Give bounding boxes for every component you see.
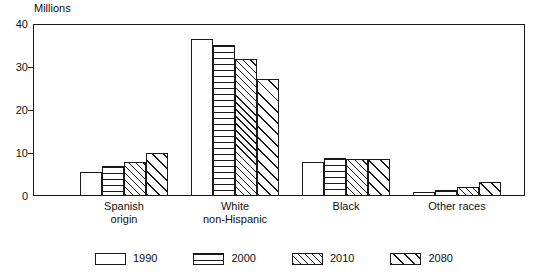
x-axis-category-labels: SpanishoriginWhitenon-HispanicBlackOther… — [33, 200, 525, 236]
legend-label-2010: 2010 — [330, 253, 354, 264]
x-label-spanish-origin: Spanishorigin — [64, 200, 184, 226]
y-tick-label-20: 20 — [2, 105, 28, 116]
y-axis-unit-caption: Millions — [34, 2, 71, 14]
bar-2000-other-races — [435, 190, 457, 196]
legend-label-2000: 2000 — [231, 253, 255, 264]
bar-chart-figure: Millions 40 30 20 10 0 SpanishoriginWhit… — [0, 0, 533, 276]
legend-swatch-1990 — [95, 253, 126, 265]
bar-2000-spanish-origin — [102, 166, 124, 196]
bar-2080-spanish-origin — [146, 153, 168, 196]
legend-swatch-2010 — [292, 253, 323, 265]
bar-2000-black — [324, 158, 346, 196]
bar-2010-spanish-origin — [124, 162, 146, 196]
bar-2010-white-non-hispanic — [235, 59, 257, 196]
bar-2000-white-non-hispanic — [213, 45, 235, 196]
x-label-white-non-hispanic: Whitenon-Hispanic — [175, 200, 295, 226]
bars-layer — [33, 24, 525, 196]
bar-1990-white-non-hispanic — [191, 39, 213, 196]
legend-item-2080: 2080 — [390, 253, 452, 265]
y-tick-label-0: 0 — [2, 191, 28, 202]
legend-swatch-2080 — [390, 253, 421, 265]
bar-1990-black — [302, 162, 324, 196]
y-axis: 40 30 20 10 0 — [0, 0, 33, 276]
y-tick-label-10: 10 — [2, 148, 28, 159]
legend-item-2010: 2010 — [292, 253, 390, 265]
legend-swatch-2000 — [193, 253, 224, 265]
legend: 1990200020102080 — [95, 249, 453, 268]
bar-2080-other-races — [479, 182, 501, 196]
x-label-black: Black — [286, 200, 406, 213]
bar-2010-black — [346, 159, 368, 196]
bar-1990-spanish-origin — [80, 172, 102, 196]
bar-2080-black — [368, 159, 390, 196]
legend-item-2000: 2000 — [193, 253, 291, 265]
bar-2010-other-races — [457, 187, 479, 196]
legend-item-1990: 1990 — [95, 253, 193, 265]
x-label-other-races: Other races — [397, 200, 517, 213]
legend-label-1990: 1990 — [133, 253, 157, 264]
legend-label-2080: 2080 — [428, 253, 452, 264]
bar-2080-white-non-hispanic — [257, 79, 279, 196]
bar-1990-other-races — [413, 192, 435, 196]
y-tick-label-40: 40 — [2, 19, 28, 30]
y-tick-label-30: 30 — [2, 62, 28, 73]
